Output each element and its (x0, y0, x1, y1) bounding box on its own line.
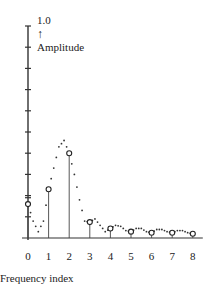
sampled-spectrum-stems (26, 151, 196, 238)
y-axis-arrow-icon: ↑ (37, 28, 43, 40)
curve-dot (135, 228, 137, 230)
curve-dot (58, 146, 60, 148)
stem-point (46, 187, 51, 238)
curve-dot (184, 231, 186, 233)
x-tick-label: 1 (43, 250, 55, 262)
curve-dot (125, 230, 127, 232)
curve-dot (146, 231, 148, 233)
curve-dot (71, 163, 73, 165)
curve-dot (176, 230, 178, 232)
curve-dot (32, 220, 34, 222)
curve-dot (30, 212, 32, 214)
stem-point (129, 229, 134, 238)
curve-dot (94, 218, 96, 220)
stem-point (26, 202, 31, 238)
x-tick-label: 2 (63, 250, 75, 262)
stem-point (170, 230, 175, 238)
curve-dot (164, 230, 166, 232)
curve-dot (76, 186, 78, 188)
curve-dot (179, 230, 181, 232)
curve-dot (122, 228, 124, 230)
curve-dot (182, 230, 184, 232)
stem-point (149, 230, 154, 238)
curve-dot (117, 225, 119, 227)
curve-dot (66, 146, 68, 148)
curve-dot (138, 228, 140, 230)
curve-dot (81, 210, 83, 212)
curve-dot (73, 174, 75, 176)
chart-canvas (0, 0, 211, 291)
curve-dot (158, 229, 160, 231)
curve-dot (143, 229, 145, 231)
x-axis-label: Frequency index (0, 272, 74, 284)
curve-dot (84, 220, 86, 222)
curve-dot (140, 228, 142, 230)
stem-point (190, 231, 195, 238)
curve-dot (120, 225, 122, 227)
x-tick-label: 6 (146, 250, 158, 262)
y-axis-label: Amplitude (37, 41, 84, 53)
stem-point (87, 220, 92, 238)
curve-dot (97, 221, 99, 223)
curve-dot (40, 225, 42, 227)
stem-point (108, 226, 113, 238)
curve-dot (156, 229, 158, 231)
x-tick-label: 3 (84, 250, 96, 262)
curve-dot (99, 224, 101, 226)
curve-dot (102, 228, 104, 230)
curve-dot (104, 231, 106, 233)
curve-dot (37, 231, 39, 233)
axes (22, 26, 203, 240)
curve-dot (35, 225, 37, 227)
curve-dot (187, 232, 189, 234)
curve-dot (55, 157, 57, 159)
x-tick-label: 0 (22, 250, 34, 262)
curve-dot (53, 167, 55, 169)
curve-dot (63, 140, 65, 142)
curve-dot (115, 224, 117, 226)
curve-dot (166, 231, 168, 233)
curve-dot (61, 143, 63, 145)
x-tick-label: 4 (104, 250, 116, 262)
curve-dot (45, 204, 47, 206)
continuous-spectrum-dots (27, 140, 191, 235)
curve-dot (79, 199, 81, 201)
x-tick-label: 5 (125, 250, 137, 262)
curve-dot (50, 178, 52, 180)
curve-dot (43, 220, 45, 222)
curve-dot (161, 229, 163, 231)
x-tick-label: 7 (166, 250, 178, 262)
x-tick-label: 8 (187, 250, 199, 262)
y-axis-max-label: 1.0 (37, 14, 51, 26)
